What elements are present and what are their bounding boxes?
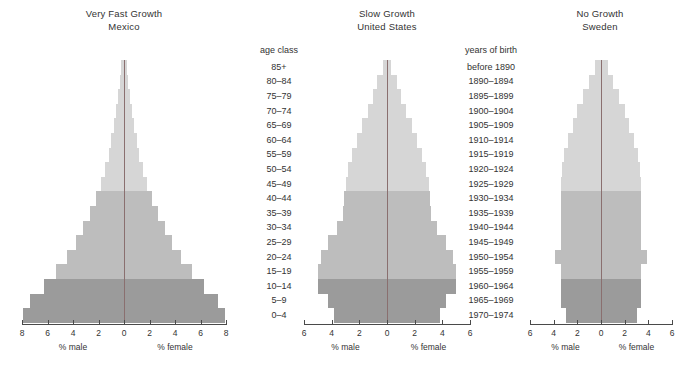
x-axis-caption-female: % female: [157, 342, 192, 352]
panel-united-states-title: Slow Growth United States: [296, 8, 478, 33]
bar-female: [124, 250, 181, 265]
bar-male: [573, 118, 601, 133]
bar-female: [601, 148, 638, 163]
bar-male: [337, 221, 387, 236]
bar-male: [90, 206, 124, 221]
x-axis-tick-label: 6: [468, 328, 473, 338]
bar-female: [387, 191, 430, 206]
bar-female: [387, 89, 401, 104]
bar-female: [387, 133, 417, 148]
bar-female: [387, 235, 446, 250]
x-axis-tick-label: 4: [329, 328, 334, 338]
panel-mexico-title: Very Fast Growth Mexico: [8, 8, 240, 33]
x-axis-tick-label: 0: [122, 328, 127, 338]
x-axis-tick: [648, 320, 649, 325]
bar-female: [124, 264, 192, 279]
bar-male: [56, 264, 124, 279]
panel-sweden-title-line2: Sweden: [524, 21, 676, 34]
x-axis-tick: [99, 320, 100, 325]
pyramid-plot-sweden: [530, 60, 672, 323]
x-axis-tick-label: 0: [599, 328, 604, 338]
bar-female: [124, 75, 128, 90]
bar-female: [124, 162, 143, 177]
bar-female: [124, 221, 165, 236]
x-axis-tick-label: 2: [147, 328, 152, 338]
bar-male: [561, 177, 601, 192]
bar-male: [561, 206, 601, 221]
x-axis-tick-label: 2: [575, 328, 580, 338]
bar-male: [561, 235, 601, 250]
bar-male: [373, 89, 387, 104]
x-axis-tick-label: 6: [198, 328, 203, 338]
bar-male: [105, 162, 124, 177]
bar-female: [601, 264, 641, 279]
bar-male: [114, 118, 124, 133]
bar-male: [318, 279, 387, 294]
bar-male: [83, 221, 124, 236]
x-axis-tick-label: 4: [173, 328, 178, 338]
x-axis-tick: [672, 320, 673, 325]
x-axis-tick: [442, 320, 443, 325]
bar-male: [562, 162, 601, 177]
bar-female: [124, 148, 139, 163]
bar-male: [577, 104, 601, 119]
x-axis-tick: [175, 320, 176, 325]
bar-female: [387, 75, 397, 90]
panel-united-states-title-line2: United States: [296, 21, 478, 34]
x-axis-tick: [387, 320, 388, 325]
x-axis-tick-label: 2: [622, 328, 627, 338]
bar-male: [321, 250, 387, 265]
population-pyramid-figure: Very Fast Growth Mexico 864202468% male%…: [0, 0, 681, 386]
bar-female: [601, 308, 637, 323]
center-axis-line-united-states: [387, 60, 388, 323]
x-axis-caption-male: % male: [331, 342, 359, 352]
bar-male: [352, 148, 387, 163]
center-axis-line-mexico: [124, 60, 125, 323]
bar-male: [583, 89, 601, 104]
bar-female: [601, 60, 608, 75]
bar-male: [568, 133, 601, 148]
bar-female: [124, 133, 137, 148]
bar-female: [601, 294, 641, 309]
bar-male: [109, 148, 124, 163]
panel-sweden-title: No Growth Sweden: [524, 8, 676, 33]
bar-male: [561, 279, 601, 294]
bar-female: [601, 133, 634, 148]
bar-male: [328, 235, 387, 250]
bar-female: [124, 118, 134, 133]
bar-female: [387, 177, 429, 192]
x-axis-tick: [415, 320, 416, 325]
x-axis-tick-label: 4: [71, 328, 76, 338]
bar-female: [601, 221, 641, 236]
x-axis-caption-female: % female: [619, 342, 654, 352]
x-axis-tick: [359, 320, 360, 325]
bar-male: [101, 177, 124, 192]
bar-female: [124, 191, 152, 206]
panel-sweden-title-line1: No Growth: [576, 8, 623, 19]
panel-sweden: No Growth Sweden 6420246% male% female: [524, 0, 676, 386]
bar-female: [601, 75, 613, 90]
x-axis-tick: [577, 320, 578, 325]
bar-female: [124, 235, 172, 250]
bar-male: [589, 75, 601, 90]
x-axis-tick: [332, 320, 333, 325]
bar-female: [601, 162, 640, 177]
x-axis-tick-label: 2: [412, 328, 417, 338]
x-axis-tick-label: 4: [440, 328, 445, 338]
x-axis-tick-label: 0: [385, 328, 390, 338]
bar-male: [564, 148, 601, 163]
bar-male: [348, 162, 387, 177]
panel-mexico-title-line2: Mexico: [8, 21, 240, 34]
bar-female: [601, 118, 629, 133]
bar-male: [344, 191, 387, 206]
bar-female: [387, 294, 446, 309]
x-axis-tick-label: 6: [302, 328, 307, 338]
bar-female: [387, 162, 426, 177]
bar-male: [346, 177, 388, 192]
bar-female: [124, 206, 158, 221]
x-axis-tick: [226, 320, 227, 325]
bar-female: [387, 148, 422, 163]
bar-male: [566, 308, 602, 323]
bar-male: [111, 133, 124, 148]
pyramid-plot-mexico: [22, 60, 226, 323]
